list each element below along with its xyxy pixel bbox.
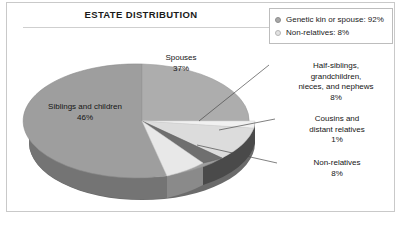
pie-slice-value: 46%	[27, 113, 143, 124]
legend-marker-icon	[275, 17, 281, 23]
pie-slice-name: Siblings and children	[27, 102, 143, 113]
pie-slice-name: Spouses	[145, 53, 217, 64]
callout-cousins: Cousins and distant relatives 1%	[285, 114, 389, 146]
callout-line: distant relatives	[285, 125, 389, 136]
callout-line: grandchildren,	[279, 72, 393, 83]
callout-line: Non-relatives	[287, 158, 387, 169]
legend-item-non-relatives[interactable]: Non-relatives: 8%	[275, 26, 387, 39]
callout-value: 8%	[279, 93, 393, 104]
callout-line: Cousins and	[285, 114, 389, 125]
legend-item-label: Non-relatives: 8%	[286, 28, 349, 37]
chart-figure: ESTATE DISTRIBUTION Genetic kin or spous…	[6, 2, 395, 212]
legend-marker-icon	[275, 30, 281, 36]
callout-line: Half-siblings,	[279, 61, 393, 72]
pie-slice-label-spouses: Spouses 37%	[145, 53, 217, 74]
legend-item-genetic-kin[interactable]: Genetic kin or spouse: 92%	[275, 13, 387, 26]
page-title: ESTATE DISTRIBUTION	[7, 9, 275, 20]
callout-value: 1%	[285, 135, 389, 146]
legend-item-label: Genetic kin or spouse: 92%	[286, 15, 384, 24]
callout-half-siblings: Half-siblings, grandchildren, nieces, an…	[279, 61, 393, 103]
title-divider	[23, 27, 269, 28]
pie-slice-value: 37%	[145, 64, 217, 75]
callout-value: 8%	[287, 169, 387, 180]
callout-non-relatives: Non-relatives 8%	[287, 158, 387, 179]
chart-legend: Genetic kin or spouse: 92% Non-relatives…	[269, 8, 393, 44]
callout-line: nieces, and nephews	[279, 82, 393, 93]
pie-slice-label-siblings: Siblings and children 46%	[27, 102, 143, 123]
